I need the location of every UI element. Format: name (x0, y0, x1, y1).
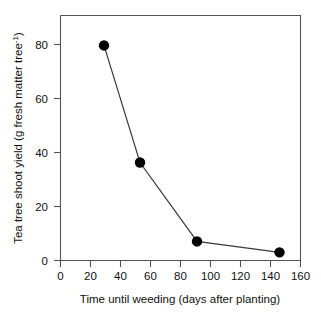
data-point (274, 247, 284, 257)
x-tick-label-20: 20 (84, 270, 97, 282)
y-tick-label-60: 60 (35, 93, 48, 105)
axes-border (61, 16, 301, 261)
chart-figure: 0 20 40 60 80 0 20 40 60 80 100 120 (0, 0, 321, 323)
y-axis-title-main: Tea tree shoot yield (g fresh matter tre… (12, 43, 24, 244)
x-tick-label-0: 0 (57, 270, 63, 282)
line-chart: 0 20 40 60 80 0 20 40 60 80 100 120 (0, 0, 321, 323)
data-point (99, 40, 109, 50)
x-tick-label-40: 40 (114, 270, 127, 282)
x-tick-label-100: 100 (201, 270, 220, 282)
y-axis-ticks (54, 45, 61, 261)
y-tick-label-20: 20 (35, 201, 48, 213)
y-axis-title-tail: ) (12, 32, 24, 36)
x-axis-tick-labels: 0 20 40 60 80 100 120 140 160 (57, 270, 310, 282)
data-point (192, 236, 202, 246)
y-tick-label-40: 40 (35, 147, 48, 159)
x-axis-title: Time until weeding (days after planting) (80, 293, 280, 305)
x-tick-label-140: 140 (261, 270, 280, 282)
x-tick-label-160: 160 (291, 270, 310, 282)
x-tick-label-80: 80 (174, 270, 187, 282)
plot-frame (61, 16, 301, 261)
y-tick-label-80: 80 (35, 39, 48, 51)
y-axis-tick-labels: 0 20 40 60 80 (35, 39, 48, 267)
x-tick-label-60: 60 (144, 270, 157, 282)
data-line (104, 45, 280, 252)
x-axis-ticks (61, 261, 301, 268)
x-tick-label-120: 120 (231, 270, 250, 282)
data-markers (99, 40, 285, 257)
y-tick-label-0: 0 (42, 255, 48, 267)
data-point (135, 157, 145, 167)
y-axis-title: Tea tree shoot yield (g fresh matter tre… (11, 32, 24, 244)
